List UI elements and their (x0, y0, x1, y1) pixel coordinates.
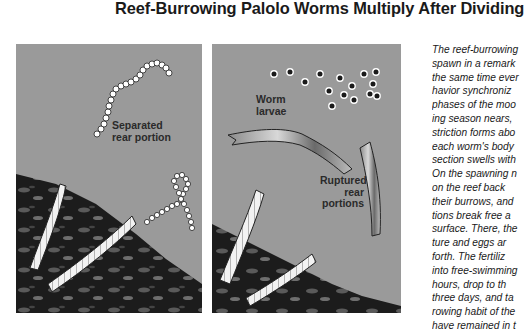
text-line: phases of the moo (432, 98, 528, 112)
text-line: each worm's body (432, 140, 528, 154)
text-line: On the spawning n (432, 167, 528, 181)
label-ruptured-rear-portions: Ruptured rear portions (320, 175, 364, 210)
ruptured-rear-portion-1 (228, 129, 352, 174)
page-title: Reef-Burrowing Palolo Worms Multiply Aft… (115, 0, 515, 18)
text-line: striction forms abo (432, 126, 528, 140)
illustration-panel-separated: Separated rear portion (16, 44, 202, 313)
label-separated-rear-portion: Separated rear portion (112, 120, 171, 143)
reef-scene-1 (16, 44, 202, 313)
reef-scene-2 (212, 44, 401, 313)
text-line: rowing habit of the (432, 305, 528, 319)
label-line: portions (320, 198, 364, 210)
illustration-panel-larvae: Worm larvae Ruptured rear portions (212, 44, 401, 313)
label-line: Separated (112, 120, 171, 132)
label-line: rear portion (112, 132, 171, 144)
text-line: on the reef back (432, 181, 528, 195)
text-line: tions break free a (432, 209, 528, 223)
text-line: the same time ever (432, 71, 528, 85)
text-line: section swells with (432, 153, 528, 167)
text-line: surface. There, the (432, 222, 528, 236)
worm-larvae (271, 69, 380, 109)
label-line: larvae (256, 106, 286, 118)
text-line: havior synchroniz (432, 84, 528, 98)
text-line: spawn in a remark (432, 57, 528, 71)
label-line: Worm (256, 94, 286, 106)
text-line: have remained in t (432, 319, 528, 329)
text-line: The reef-burrowing (432, 43, 528, 57)
text-line: three days, and ta (432, 291, 528, 305)
text-line: ing season nears, (432, 112, 528, 126)
label-line: Ruptured (320, 175, 364, 187)
text-line: into free-swimming (432, 264, 528, 278)
text-line: ture and eggs ar (432, 236, 528, 250)
article-body-text: The reef-burrowing spawn in a remark the… (432, 43, 528, 329)
text-line: their burrows, and (432, 195, 528, 209)
looping-rear-portion (144, 172, 194, 230)
text-line: forth. The fertiliz (432, 250, 528, 264)
text-line: hours, drop to th (432, 278, 528, 292)
label-worm-larvae: Worm larvae (256, 94, 286, 117)
